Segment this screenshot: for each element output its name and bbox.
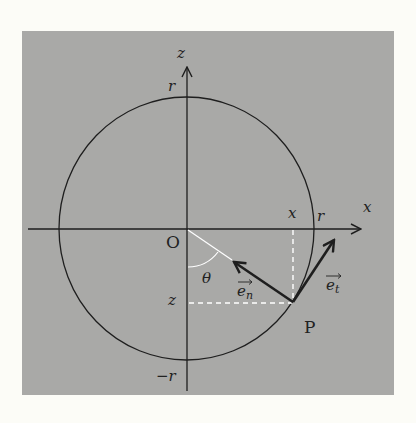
normal-vector-label: e n	[237, 280, 253, 303]
z-projection-label: z	[167, 291, 176, 309]
z-axis-label: z	[176, 44, 185, 62]
theta-label: θ	[202, 269, 211, 287]
circle-motion-diagram: z r x x r O θ z P −r e n e t	[0, 0, 416, 423]
svg-text:e: e	[237, 282, 246, 300]
x-projection-label: x	[288, 204, 297, 222]
circle-bottom-r-label: −r	[156, 367, 177, 385]
diagram-panel	[22, 31, 394, 395]
x-axis-label: x	[363, 198, 372, 216]
svg-text:t: t	[335, 283, 340, 296]
svg-text:e: e	[326, 276, 335, 294]
svg-text:n: n	[246, 289, 253, 302]
circle-right-r-label: r	[317, 207, 325, 225]
origin-label: O	[166, 232, 180, 252]
point-p-label: P	[304, 317, 315, 337]
circle-top-r-label: r	[168, 77, 176, 95]
